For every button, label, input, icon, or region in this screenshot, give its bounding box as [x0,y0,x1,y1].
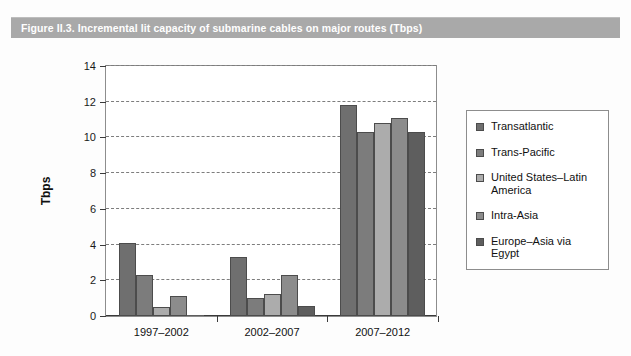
bar [281,275,298,316]
x-tick-label: 2002–2007 [244,326,299,338]
bar [264,294,281,317]
bar [247,298,264,316]
y-tick-label-14: 14 [84,60,96,72]
legend-swatch-icon [476,149,484,157]
bar [119,243,136,316]
legend-label: United States–Latin America [491,171,600,196]
figure-title: Figure II.3. Incremental lit capacity of… [11,22,422,34]
y-tick-0 [100,316,106,317]
chart-area: Tbps 02468101214 1997–20022002–20072007–… [0,44,631,356]
bar-group [119,66,204,316]
bar [153,307,170,316]
x-tick [438,316,439,322]
y-axis-title: Tbps [38,65,54,317]
legend-swatch-icon [476,174,484,182]
x-tick-label: 2007–2012 [355,326,410,338]
legend-label: Transatlantic [491,120,554,133]
x-tick [217,316,218,322]
y-axis-title-label: Tbps [39,177,53,206]
x-tick-label: 1997–2002 [134,326,189,338]
figure-title-bar: Figure II.3. Incremental lit capacity of… [11,17,620,38]
legend-label: Intra-Asia [491,209,538,222]
bar [374,123,391,316]
legend-item[interactable]: Trans-Pacific [476,146,600,159]
bar [230,257,247,316]
y-tick-label-2: 2 [90,274,96,286]
legend-item[interactable]: Transatlantic [476,120,600,133]
legend-item[interactable]: Intra-Asia [476,209,600,222]
legend-label: Europe–Asia via Egypt [491,235,600,260]
legend-swatch-icon [476,123,484,131]
y-tick-label-10: 10 [84,131,96,143]
bar [298,306,315,316]
legend-label: Trans-Pacific [491,146,555,159]
legend-swatch-icon [476,212,484,220]
y-tick-label-0: 0 [90,310,96,322]
bar-group [340,66,425,316]
bar-group [230,66,315,316]
bar [187,315,204,316]
figure-container: Figure II.3. Incremental lit capacity of… [0,0,631,356]
legend-item[interactable]: Europe–Asia via Egypt [476,235,600,260]
bar [391,118,408,316]
y-tick-label-8: 8 [90,167,96,179]
bar [340,105,357,316]
legend-swatch-icon [476,238,484,246]
bar-groups [106,66,436,316]
bar [357,132,374,316]
bar [408,132,425,316]
bar [170,296,187,316]
y-tick-label-6: 6 [90,203,96,215]
plot-frame: 02468101214 1997–20022002–20072007–2012 [105,65,437,317]
chart-legend: TransatlanticTrans-PacificUnited States–… [466,110,609,270]
legend-item[interactable]: United States–Latin America [476,171,600,196]
y-tick-label-12: 12 [84,96,96,108]
y-tick-label-4: 4 [90,239,96,251]
x-tick [327,316,328,322]
bar [136,275,153,316]
